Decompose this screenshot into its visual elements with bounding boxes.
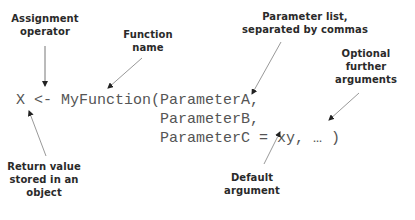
arrow-default-argument <box>264 132 280 164</box>
function-anatomy-diagram: Assignment operator Function name Parame… <box>0 0 415 220</box>
arrow-parameter-list <box>252 42 281 94</box>
arrow-return-value <box>29 111 46 156</box>
arrow-function-name <box>108 58 142 88</box>
arrows-layer <box>0 0 415 220</box>
arrow-optional-arguments <box>329 93 359 120</box>
